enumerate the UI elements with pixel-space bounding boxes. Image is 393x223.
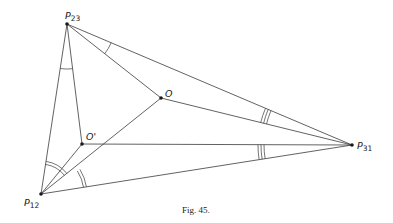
label-p12: P12 (24, 197, 40, 210)
edge-p23-p31 (67, 24, 352, 145)
angle-mark-p31-upper-3 (261, 108, 266, 122)
edge-oprime-p31 (82, 144, 352, 145)
point-p23 (65, 22, 69, 26)
angle-mark-p23-left (60, 69, 72, 70)
point-p31 (350, 143, 354, 147)
edge-p23-oprime (67, 24, 82, 144)
edges (41, 24, 352, 194)
angle-mark-p12-upper-2 (46, 161, 67, 173)
labels: P23 O O' P12 P31 (24, 10, 373, 210)
label-o-prime: O' (86, 131, 96, 142)
figure-caption: Fig. 45. (182, 205, 210, 215)
edge-p23-p12 (41, 24, 67, 194)
point-o (159, 96, 163, 100)
angle-mark-p23-top (105, 43, 112, 54)
edge-o-p31 (161, 98, 352, 145)
angle-mark-p31-lower-3 (258, 145, 259, 160)
label-o: O (165, 88, 173, 99)
angle-mark-p12-upper-1 (46, 164, 65, 175)
geometry-figure: P23 O O' P12 P31 Fig. 45. (0, 0, 393, 223)
point-o-prime (80, 142, 84, 146)
edge-p12-p31 (41, 145, 352, 194)
label-p31: P31 (357, 140, 373, 153)
angle-marks (46, 43, 271, 188)
point-p12 (39, 192, 43, 196)
edge-p23-o (67, 24, 161, 98)
angle-mark-p12-lower-1 (77, 171, 83, 187)
angle-mark-p31-lower-2 (261, 145, 262, 160)
edge-o-p12 (41, 98, 161, 194)
angle-mark-p31-lower-1 (264, 145, 265, 159)
label-p23: P23 (65, 10, 81, 23)
